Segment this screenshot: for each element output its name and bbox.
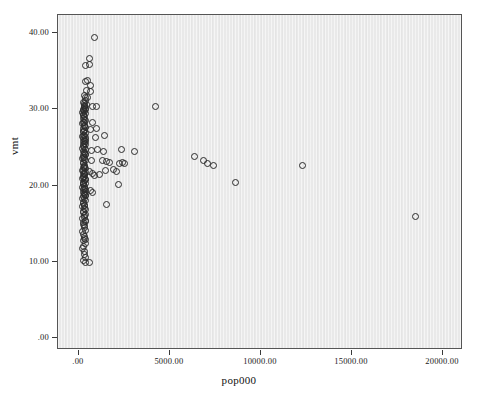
data-point	[92, 134, 99, 141]
x-tick-label: .00	[72, 356, 83, 366]
plot-panel	[57, 14, 462, 349]
data-point	[80, 164, 87, 171]
data-point	[412, 213, 419, 220]
y-tick-mark	[52, 185, 57, 186]
x-tick-mark	[169, 350, 170, 355]
x-tick-label: 20000.00	[425, 356, 458, 366]
x-tick-mark	[260, 350, 261, 355]
scatter-plot-figure: .0010.0020.0030.0040.00 .005000.0010000.…	[0, 0, 478, 404]
data-point	[91, 34, 98, 41]
data-point	[89, 189, 96, 196]
y-tick-label: 10.00	[29, 256, 49, 266]
data-point	[106, 159, 113, 166]
data-point	[121, 160, 128, 167]
data-point	[232, 179, 239, 186]
data-point	[88, 157, 95, 164]
data-point	[152, 103, 159, 110]
y-tick-label: 40.00	[29, 27, 49, 37]
data-point	[118, 146, 125, 153]
y-tick-label: 20.00	[29, 180, 49, 190]
y-tick-mark	[52, 261, 57, 262]
data-point	[82, 236, 89, 243]
data-point	[115, 181, 122, 188]
data-point	[82, 138, 89, 145]
data-point	[100, 148, 107, 155]
data-point	[86, 61, 93, 68]
x-tick-label: 5000.00	[154, 356, 183, 366]
x-tick-mark	[351, 350, 352, 355]
y-tick-mark	[52, 337, 57, 338]
data-point	[210, 162, 217, 169]
data-point	[81, 102, 88, 109]
x-tick-label: 15000.00	[334, 356, 367, 366]
y-tick-mark	[52, 108, 57, 109]
data-point	[191, 153, 198, 160]
data-point	[102, 167, 109, 174]
data-point	[93, 125, 100, 132]
y-tick-mark	[52, 32, 57, 33]
data-points-layer	[58, 15, 461, 348]
data-point	[93, 103, 100, 110]
data-point	[81, 191, 88, 198]
x-tick-mark	[442, 350, 443, 355]
data-point	[131, 148, 138, 155]
x-tick-mark	[78, 350, 79, 355]
x-axis-title: pop000	[0, 374, 478, 386]
data-point	[86, 259, 93, 266]
data-point	[101, 132, 108, 139]
y-tick-label: 30.00	[29, 103, 49, 113]
x-tick-label: 10000.00	[243, 356, 276, 366]
data-point	[113, 168, 120, 175]
data-point	[103, 201, 110, 208]
data-point	[299, 162, 306, 169]
data-point	[80, 128, 87, 135]
y-axis-title: vmt	[8, 137, 20, 155]
y-tick-label: .00	[38, 332, 49, 342]
